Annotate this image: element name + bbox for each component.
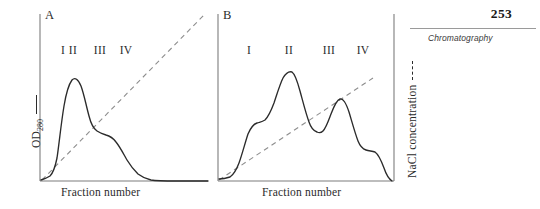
panel-b-od280-curve [219, 72, 392, 181]
figure-canvas [0, 0, 410, 209]
panel-a-x-axis-label: Fraction number [61, 186, 140, 198]
nacl-label-text: NaCl concentration [406, 85, 418, 178]
panel-a-od280-curve [41, 79, 208, 181]
panel-a-peak-label-ii: II [66, 44, 80, 56]
page-number: 253 [491, 6, 512, 22]
panel-letter-a: A [45, 8, 54, 23]
panel-b-x-axis-label: Fraction number [262, 186, 341, 198]
panel-b-peak-label-iv: IV [354, 44, 372, 56]
header-divider [410, 28, 536, 29]
od280-legend-solid-line-icon [36, 95, 37, 114]
panel-a-peak-label-iv: IV [117, 44, 135, 56]
panel-b-nacl-gradient-line [219, 78, 373, 180]
panel-a-peak-label-iii: III [91, 44, 109, 56]
od280-label-text: OD [30, 131, 42, 148]
panel-b-peak-label-ii: II [281, 44, 297, 56]
chromatography-figure: A B I II III IV I II III IV Fraction num… [0, 0, 410, 209]
od280-axis-label: OD280 [30, 95, 42, 148]
od280-subscript: 280 [36, 119, 45, 131]
nacl-legend-dashed-line-icon [412, 61, 413, 80]
panel-letter-b: B [223, 8, 231, 23]
panel-b-axes [218, 14, 394, 181]
panel-b-peak-label-iii: III [320, 44, 338, 56]
nacl-concentration-axis-label: NaCl concentration [406, 61, 418, 178]
panel-b-peak-label-i: I [242, 44, 256, 56]
page-header: 253 Chromatography [410, 0, 536, 56]
running-head-chapter-title: Chromatography [428, 33, 493, 43]
